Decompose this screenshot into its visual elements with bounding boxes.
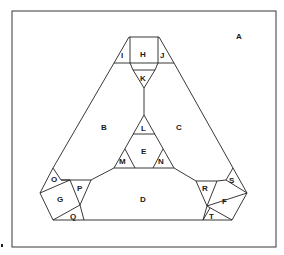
region-labels: A B C D E F G H I J K L M N O P Q R S T (51, 32, 242, 221)
region-label-m: M (119, 157, 126, 166)
region-label-f: F (222, 197, 227, 206)
region-label-l: L (141, 124, 146, 133)
region-label-r: R (202, 184, 208, 193)
corner-mark (1, 244, 3, 247)
region-label-d: D (140, 195, 146, 204)
region-label-c: C (176, 123, 182, 132)
region-label-a: A (236, 32, 242, 41)
region-label-j: J (160, 51, 164, 60)
region-label-t: T (209, 212, 214, 221)
region-label-h: H (140, 50, 146, 59)
region-label-e: E (141, 147, 147, 156)
region-label-n: N (158, 157, 164, 166)
region-label-b: B (101, 123, 107, 132)
region-label-p: P (77, 184, 83, 193)
region-label-i: I (121, 51, 123, 60)
region-map-diagram: A B C D E F G H I J K L M N O P Q R S T (0, 0, 284, 255)
region-label-s: S (229, 176, 235, 185)
region-label-k: K (140, 74, 146, 83)
region-label-q: Q (70, 212, 76, 221)
region-label-o: O (51, 175, 57, 184)
region-label-g: G (57, 195, 63, 204)
